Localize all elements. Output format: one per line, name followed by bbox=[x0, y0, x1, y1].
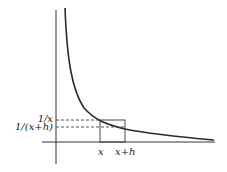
area-rectangle bbox=[100, 120, 125, 142]
label-1-over-x-plus-h: 1/(x+h) bbox=[11, 122, 53, 132]
label-x-plus-h: x+h bbox=[115, 147, 135, 157]
hyperbola-diagram bbox=[0, 0, 227, 172]
label-x: x bbox=[98, 147, 104, 157]
